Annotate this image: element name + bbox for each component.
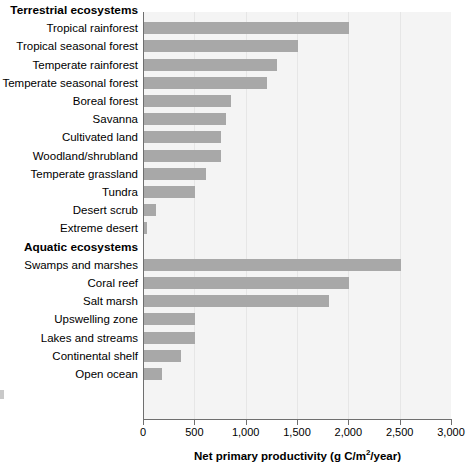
- bar: [144, 186, 195, 198]
- x-tick-0: [143, 420, 144, 425]
- category-label: Lakes and streams: [0, 329, 138, 347]
- bar: [144, 277, 349, 289]
- chart-row: Continental shelf: [0, 347, 471, 365]
- chart-row: Desert scrub: [0, 201, 471, 219]
- x-axis-title-text: Net primary productivity (g C/m: [194, 450, 366, 462]
- bar: [144, 59, 277, 71]
- section-header-label: Terrestrial ecosystems: [0, 1, 138, 19]
- category-label: Tropical rainforest: [0, 19, 138, 37]
- chart-row: Boreal forest: [0, 92, 471, 110]
- chart-row: Tropical seasonal forest: [0, 37, 471, 55]
- category-label: Boreal forest: [0, 92, 138, 110]
- x-axis-title-suffix: /year): [370, 450, 401, 462]
- bar: [144, 131, 221, 143]
- chart-row: Tundra: [0, 183, 471, 201]
- x-tick-1000: [246, 420, 247, 425]
- chart-row: Salt marsh: [0, 292, 471, 310]
- x-tick-500: [194, 420, 195, 425]
- chart-row: Swamps and marshes: [0, 256, 471, 274]
- bar: [144, 313, 195, 325]
- category-label: Tundra: [0, 183, 138, 201]
- section-header-label: Aquatic ecosystems: [0, 238, 138, 256]
- bar: [144, 22, 349, 34]
- chart-row: Woodland/shrubland: [0, 147, 471, 165]
- chart-row: Temperate seasonal forest: [0, 74, 471, 92]
- x-tick-3000: [451, 420, 452, 425]
- x-tick-1500: [297, 420, 298, 425]
- category-label: Temperate seasonal forest: [0, 74, 138, 92]
- chart-row: Cultivated land: [0, 128, 471, 146]
- x-tick-label-3000: 3,000: [421, 426, 471, 439]
- category-label: Extreme desert: [0, 219, 138, 237]
- category-label: Temperate grassland: [0, 165, 138, 183]
- bar: [144, 113, 226, 125]
- bar: [144, 222, 147, 234]
- bar: [144, 150, 221, 162]
- bar: [144, 95, 231, 107]
- chart-row: Lakes and streams: [0, 329, 471, 347]
- bar: [144, 77, 267, 89]
- bar: [144, 40, 298, 52]
- category-label: Salt marsh: [0, 292, 138, 310]
- category-label: Cultivated land: [0, 128, 138, 146]
- chart-row: Savanna: [0, 110, 471, 128]
- category-label: Open ocean: [0, 365, 138, 383]
- bar: [144, 259, 401, 271]
- category-label: Woodland/shrubland: [0, 147, 138, 165]
- category-label: Coral reef: [0, 274, 138, 292]
- category-label: Upswelling zone: [0, 310, 138, 328]
- chart-row: Upswelling zone: [0, 310, 471, 328]
- section-header-row: Aquatic ecosystems: [0, 238, 471, 256]
- chart-row: Temperate rainforest: [0, 56, 471, 74]
- chart-row: Temperate grassland: [0, 165, 471, 183]
- category-label: Tropical seasonal forest: [0, 37, 138, 55]
- x-axis-title: Net primary productivity (g C/m2/year): [143, 450, 452, 462]
- x-tick-2000: [348, 420, 349, 425]
- bar: [144, 332, 195, 344]
- section-header-row: Terrestrial ecosystems: [0, 1, 471, 19]
- chart-row: Tropical rainforest: [0, 19, 471, 37]
- category-label: Continental shelf: [0, 347, 138, 365]
- bar: [144, 350, 181, 362]
- bar: [144, 295, 329, 307]
- chart-row: Open ocean: [0, 365, 471, 383]
- npp-bar-chart: 05001,0001,5002,0002,5003,000 Terrestria…: [0, 0, 471, 469]
- edge-artifact: [0, 390, 4, 399]
- chart-row: Extreme desert: [0, 219, 471, 237]
- category-label: Desert scrub: [0, 201, 138, 219]
- bar: [144, 368, 162, 380]
- bar: [144, 168, 206, 180]
- category-label: Temperate rainforest: [0, 56, 138, 74]
- category-label: Swamps and marshes: [0, 256, 138, 274]
- x-tick-2500: [400, 420, 401, 425]
- bar: [144, 204, 156, 216]
- chart-row: Coral reef: [0, 274, 471, 292]
- category-label: Savanna: [0, 110, 138, 128]
